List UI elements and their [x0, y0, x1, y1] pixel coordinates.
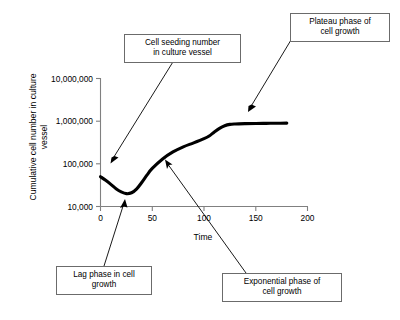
- annotation-leader-lag: [104, 199, 128, 266]
- y-axis-title: Cumulative cell number in culture vessel: [6, 72, 30, 202]
- callout-exponential-phase: Exponential phase of cell growth: [222, 273, 342, 302]
- annotation-leader-seeding: [111, 57, 177, 164]
- y-tick-label-10000000: 10,000,000: [51, 74, 93, 84]
- callout-lag-phase-line2: growth: [61, 280, 147, 290]
- x-tick-label-150: 150: [249, 213, 263, 223]
- callout-exponential-phase-line2: cell growth: [227, 287, 337, 297]
- callout-plateau-phase: Plateau phase of cell growth: [290, 13, 390, 42]
- callout-cell-seeding-line1: Cell seeding number: [129, 38, 236, 48]
- x-axis-title: Time: [168, 232, 238, 242]
- x-tick-label-50: 50: [148, 213, 158, 223]
- callout-lag-phase-line1: Lag phase in cell: [61, 270, 147, 280]
- y-tick-label-10000: 10,000: [67, 202, 93, 212]
- y-axis-title-text: Cumulative cell number in culture vessel: [28, 72, 49, 202]
- growth-curve-figure: 10,000,000 1,000,000 100,000 10,000 0 50…: [0, 0, 400, 320]
- callout-cell-seeding: Cell seeding number in culture vessel: [124, 34, 241, 63]
- callout-exponential-phase-line1: Exponential phase of: [227, 277, 337, 287]
- annotation-leader-exponential: [165, 160, 246, 274]
- callout-plateau-phase-line2: cell growth: [295, 27, 385, 37]
- callout-plateau-phase-line1: Plateau phase of: [295, 17, 385, 27]
- callout-cell-seeding-line2: in culture vessel: [129, 48, 236, 58]
- callout-lag-phase: Lag phase in cell growth: [56, 266, 152, 295]
- x-tick-label-0: 0: [98, 213, 103, 223]
- x-tick-label-200: 200: [301, 213, 315, 223]
- y-tick-label-100000: 100,000: [63, 159, 94, 169]
- annotation-leader-plateau: [248, 40, 291, 112]
- y-tick-label-1000000: 1,000,000: [56, 116, 94, 126]
